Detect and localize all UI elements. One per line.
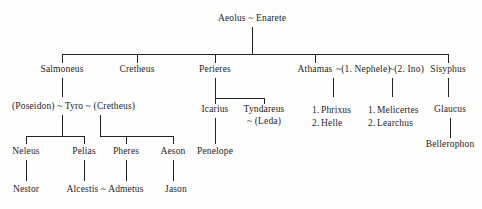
drop-pelias	[84, 136, 85, 144]
node-glaucus: Glaucus	[434, 104, 466, 115]
node-pheres: Pheres	[113, 146, 139, 157]
list-item: 1.Phrixus	[312, 104, 351, 117]
node-pelias: Pelias	[72, 146, 96, 157]
node-athamas: Athamas	[298, 64, 333, 75]
node-alcestis-admetus: Alcestis ~ Admetus	[67, 184, 144, 195]
sibling-bar-poseidon-children	[26, 136, 84, 137]
node-aeson: Aeson	[160, 146, 185, 157]
node-phrixus: Phrixus	[321, 105, 351, 115]
connector-glaucus-bellerophon	[450, 118, 451, 138]
list-item: 2.Helle	[312, 117, 351, 130]
connector-tyro-poseidon-children	[62, 115, 63, 136]
node-jason: Jason	[165, 184, 187, 195]
node-sisyphus: Sisyphus	[430, 64, 466, 75]
connector-sisyphus-glaucus	[448, 78, 449, 97]
node-helle: Helle	[321, 118, 342, 128]
node-neleus: Neleus	[12, 146, 39, 157]
connector-icarius-penelope	[215, 118, 216, 144]
sibling-bar-cretheus-children	[100, 136, 173, 137]
node-ino-marriage: ~(2. Ino)	[389, 64, 424, 75]
drop-perieres	[215, 54, 216, 63]
list-index: 1.	[312, 104, 321, 117]
drop-pheres	[126, 136, 127, 144]
connector-pelias-alcestis	[84, 160, 85, 181]
list-item: 1.Melicertes	[368, 104, 419, 117]
connector-salmoneus-tyro	[62, 78, 63, 97]
node-icarius: Icarius	[202, 104, 229, 115]
node-leda-marriage: ~ (Leda)	[247, 116, 281, 127]
drop-cretheus	[137, 54, 138, 63]
node-nephele-marriage: ~(1. Nephele)	[336, 64, 391, 75]
connector-nephele-children	[333, 78, 334, 97]
node-perieres: Perieres	[199, 64, 231, 75]
connector-neleus-nestor	[26, 160, 27, 181]
list-nephele-children: 1.Phrixus 2.Helle	[312, 104, 351, 129]
connector-pheres-admetus	[126, 160, 127, 181]
node-learchus: Learchus	[377, 118, 413, 128]
node-nestor: Nestor	[13, 184, 39, 195]
drop-sisyphus	[448, 54, 449, 63]
list-ino-children: 1.Melicertes 2.Learchus	[368, 104, 419, 129]
family-tree-diagram: Aeolus ~ Enarete Salmoneus Cretheus Peri…	[0, 0, 482, 209]
node-cretheus: Cretheus	[120, 64, 155, 75]
node-bellerophon: Bellerophon	[426, 139, 475, 150]
sibling-bar-gen2	[62, 54, 448, 55]
connector-perieres-down	[215, 78, 216, 98]
node-poseidon-tyro-cretheus: (Poseidon) ~ Tyro ~ (Cretheus)	[12, 101, 135, 112]
drop-aeson	[173, 136, 174, 144]
drop-salmoneus	[62, 54, 63, 63]
node-tyndareus: Tyndareus	[244, 104, 285, 115]
drop-athamas	[315, 54, 316, 63]
list-index: 2.	[312, 117, 321, 130]
connector-root-down	[252, 27, 253, 54]
list-index: 2.	[368, 117, 377, 130]
connector-tyro-cretheus-children	[100, 115, 101, 136]
drop-neleus	[26, 136, 27, 144]
node-salmoneus: Salmoneus	[40, 64, 83, 75]
node-penelope: Penelope	[197, 146, 233, 157]
node-aeolus-enarete: Aeolus ~ Enarete	[218, 13, 286, 24]
connector-ino-children	[392, 78, 393, 97]
sibling-bar-perieres-children	[215, 98, 264, 99]
list-item: 2.Learchus	[368, 117, 419, 130]
node-melicertes: Melicertes	[377, 105, 419, 115]
list-index: 1.	[368, 104, 377, 117]
connector-aeson-jason	[173, 160, 174, 181]
